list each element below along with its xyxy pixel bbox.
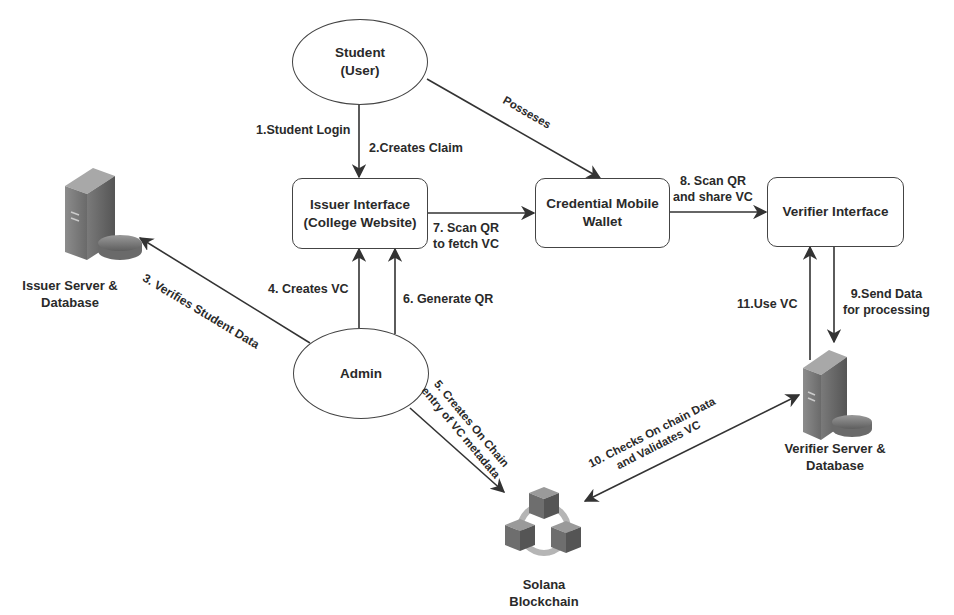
blockchain-label-line1: Solana xyxy=(497,576,591,593)
node-admin-title: Admin xyxy=(340,365,382,383)
verifier-server-label-line1: Verifier Server & xyxy=(775,440,895,457)
node-issuer-interface: Issuer Interface (College Website) xyxy=(292,178,428,249)
diagram-canvas xyxy=(0,0,954,615)
verifier-server-label-line2: Database xyxy=(775,457,895,474)
issuer-server-label-line2: Database xyxy=(10,294,130,311)
node-wallet-title: Credential Mobile xyxy=(546,195,659,213)
edge-label-scan-qr-share: 8. Scan QR and share VC xyxy=(673,173,753,205)
server-database-icon xyxy=(803,350,872,440)
edge-label-scan-qr-share-line1: 8. Scan QR xyxy=(673,173,753,189)
node-credential-wallet: Credential Mobile Wallet xyxy=(535,178,670,248)
edge-label-scan-qr-fetch: 7. Scan QR to fetch VC xyxy=(433,220,499,252)
node-issuer-interface-title: Issuer Interface xyxy=(303,196,416,214)
edge-label-generate-qr: 6. Generate QR xyxy=(403,291,493,307)
node-issuer-interface-subtitle: (College Website) xyxy=(303,214,416,232)
node-student: Student (User) xyxy=(292,19,428,105)
edge-label-creates-vc: 4. Creates VC xyxy=(268,281,349,297)
edge-label-send-data: 9.Send Data for processing xyxy=(843,286,930,318)
server-database-icon xyxy=(65,168,142,260)
edge-label-send-data-line1: 9.Send Data xyxy=(843,286,930,302)
blockchain-label: Solana Blockchain xyxy=(497,576,591,610)
edge-label-send-data-line2: for processing xyxy=(843,302,930,318)
blockchain-label-line2: Blockchain xyxy=(497,593,591,610)
node-student-title: Student xyxy=(335,44,385,62)
issuer-server-label-line1: Issuer Server & xyxy=(10,277,130,294)
edge-label-scan-qr-fetch-line1: 7. Scan QR xyxy=(433,220,499,236)
issuer-server-label: Issuer Server & Database xyxy=(10,277,130,311)
edge-label-use-vc: 11.Use VC xyxy=(737,296,797,312)
edge-label-scan-qr-fetch-line2: to fetch VC xyxy=(433,236,499,252)
node-admin: Admin xyxy=(293,328,429,419)
edge-label-student-login: 1.Student Login xyxy=(256,122,350,138)
node-student-subtitle: (User) xyxy=(335,62,385,80)
blockchain-cubes-icon xyxy=(505,487,581,553)
edge-possesses xyxy=(427,79,600,178)
node-wallet-subtitle: Wallet xyxy=(546,213,659,231)
node-verifier-interface-title: Verifier Interface xyxy=(783,203,889,221)
node-verifier-interface: Verifier Interface xyxy=(767,177,904,247)
verifier-server-label: Verifier Server & Database xyxy=(775,440,895,474)
edge-label-scan-qr-share-line2: and share VC xyxy=(673,189,753,205)
edge-label-creates-claim: 2.Creates Claim xyxy=(369,140,463,156)
